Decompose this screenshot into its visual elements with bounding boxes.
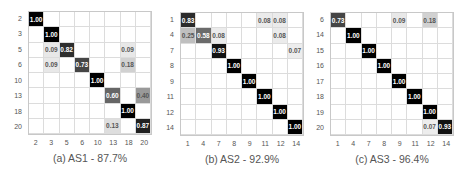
matrix-cell [44, 12, 59, 27]
matrix-cell [90, 43, 105, 58]
matrix-cell [29, 73, 44, 88]
matrix-cell: 0.58 [196, 28, 211, 43]
row-label: 14 [160, 124, 174, 131]
matrix-cell [377, 74, 392, 89]
matrix-cell [196, 13, 211, 28]
matrix-cell [29, 43, 44, 58]
matrix-cell [273, 120, 288, 135]
matrix-cell [44, 104, 59, 119]
matrix-cell [392, 28, 407, 43]
matrix-cell [242, 44, 257, 59]
matrix-cell [257, 120, 272, 135]
matrix-cell [273, 44, 288, 59]
matrix-cell [121, 12, 136, 27]
matrix-cell [181, 44, 196, 59]
matrix-cell: 0.60 [105, 88, 120, 103]
matrix-cell [90, 12, 105, 27]
column-label: 11 [257, 140, 273, 147]
matrix-cell: 0.08 [273, 13, 288, 28]
column-label: 8 [226, 140, 242, 147]
matrix-cell: 0.08 [212, 28, 227, 43]
matrix-cell [331, 120, 346, 135]
matrix-cell [242, 28, 257, 43]
matrix-cell [196, 59, 211, 74]
matrix-cell [438, 28, 453, 43]
matrix-cell [288, 105, 303, 120]
matrix-cell [346, 44, 361, 59]
matrix-cell [181, 59, 196, 74]
matrix-cell [423, 89, 438, 104]
matrix-cell [242, 89, 257, 104]
matrix-cell [331, 59, 346, 74]
matrix-cell [196, 120, 211, 135]
matrix-cell [227, 28, 242, 43]
matrix-cell [346, 59, 361, 74]
matrix-cell [29, 119, 44, 134]
matrix-cell [242, 59, 257, 74]
row-label: 18 [310, 93, 324, 100]
column-label: 18 [121, 139, 137, 146]
row-label: 15 [310, 47, 324, 54]
column-label: 8 [376, 140, 392, 147]
matrix-cell [196, 74, 211, 89]
matrix-cell [377, 13, 392, 28]
row-label: 20 [8, 123, 22, 130]
matrix-cell: 0.09 [121, 43, 136, 58]
column-label: 9 [242, 140, 258, 147]
matrix-cell [196, 89, 211, 104]
matrix-cell [346, 74, 361, 89]
matrix-cell [212, 120, 227, 135]
matrix-cell [377, 120, 392, 135]
row-label: 11 [160, 93, 174, 100]
matrix-cell [423, 74, 438, 89]
matrix-cell [257, 44, 272, 59]
matrix-cell [121, 73, 136, 88]
matrix-cell [362, 120, 377, 135]
matrix-cell [136, 27, 151, 42]
matrix-cell [90, 104, 105, 119]
column-label: 2 [28, 139, 44, 146]
matrix-cell [105, 58, 120, 73]
matrix-cell: 1.00 [121, 104, 136, 119]
row-label: 3 [8, 30, 22, 37]
matrix-cell: 0.83 [181, 13, 196, 28]
column-label: 14 [438, 140, 454, 147]
matrix-cell [377, 105, 392, 120]
matrix-cell: 0.07 [423, 120, 438, 135]
column-label: 5 [59, 139, 75, 146]
matrix-cell [121, 27, 136, 42]
matrix-cell [423, 28, 438, 43]
column-label: 9 [392, 140, 408, 147]
matrix-cell [362, 28, 377, 43]
column-label: 13 [105, 139, 121, 146]
matrix-cell: 1.00 [362, 44, 377, 59]
matrix-cell [212, 105, 227, 120]
matrix-cell: 0.13 [105, 119, 120, 134]
row-label: 10 [8, 77, 22, 84]
matrix-cell [44, 119, 59, 134]
matrix-cell [377, 28, 392, 43]
matrix-cell: 0.09 [44, 58, 59, 73]
matrix-cell: 0.25 [181, 28, 196, 43]
matrix-cell: 0.82 [60, 43, 75, 58]
column-label: 4 [345, 140, 361, 147]
matrix-cell [438, 89, 453, 104]
matrix-cell: 1.00 [227, 59, 242, 74]
matrix-cell: 1.00 [377, 59, 392, 74]
matrix-cell [60, 12, 75, 27]
matrix-cell [407, 74, 422, 89]
matrix-cell [346, 13, 361, 28]
matrix-cell [227, 13, 242, 28]
matrix-cell [392, 89, 407, 104]
matrix-cell [331, 28, 346, 43]
matrix-cell [136, 73, 151, 88]
matrix-cell [273, 89, 288, 104]
column-label: 12 [273, 140, 289, 147]
matrix-cell [44, 73, 59, 88]
matrix-cell [438, 59, 453, 74]
column-label: 14 [288, 140, 304, 147]
matrix-cell: 1.00 [273, 105, 288, 120]
matrix-cell [75, 119, 90, 134]
matrix-cell: 0.87 [136, 119, 151, 134]
matrix-cell [105, 73, 120, 88]
